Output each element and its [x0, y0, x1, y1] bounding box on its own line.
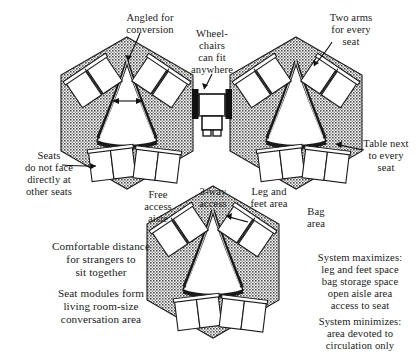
label-leg-and-feet-area: Leg and feet area	[238, 186, 300, 210]
label-comfortable-distance: Comfortable distance for strangers to si…	[26, 240, 176, 278]
label-free-access-aisle: Free access aisle	[134, 189, 182, 225]
label-two-arms-every-seat: Two arms for every seat	[313, 12, 389, 48]
hexagon-seat-module-right[interactable]	[230, 37, 362, 189]
label-system-minimizes: System minimizes: area devoted to circul…	[303, 316, 417, 352]
label-system-maximizes: System maximizes: leg and feet space bag…	[303, 252, 417, 312]
label-wheelchairs-fit-anywhere: Wheel- chairs can fit anywhere	[181, 28, 243, 76]
label-seats-do-not-face: Seats do not face directly at other seat…	[8, 150, 90, 198]
diagram-canvas: Angled for conversion Wheel- chairs can …	[0, 0, 420, 363]
label-bag-area: Bag area	[296, 206, 336, 230]
wheelchair-plan-icon	[192, 89, 232, 136]
label-3-way-access: 3-way access	[185, 186, 241, 210]
label-table-next-to-every-seat: Table next to every seat	[352, 138, 420, 174]
label-seat-modules-form: Seat modules form living room-size conve…	[26, 287, 176, 325]
